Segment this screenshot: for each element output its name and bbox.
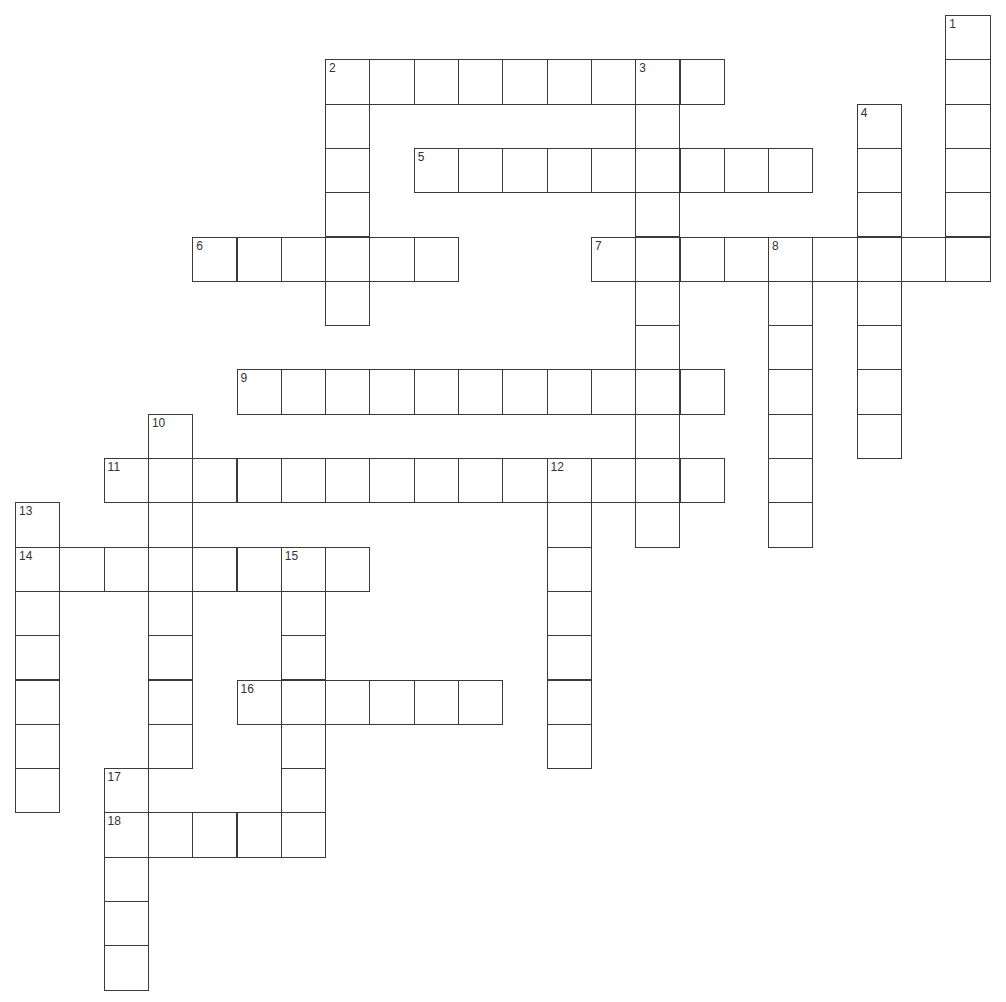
crossword-cell[interactable] — [281, 768, 326, 813]
crossword-cell[interactable] — [192, 547, 237, 592]
crossword-cell[interactable] — [857, 414, 902, 459]
crossword-cell[interactable] — [369, 458, 414, 503]
crossword-cell[interactable] — [768, 369, 813, 414]
crossword-cell[interactable] — [768, 458, 813, 503]
crossword-cell[interactable]: 3 — [635, 59, 680, 104]
crossword-cell[interactable]: 13 — [15, 502, 60, 547]
crossword-cell[interactable] — [281, 680, 326, 725]
crossword-cell[interactable] — [325, 148, 370, 193]
crossword-cell[interactable] — [635, 458, 680, 503]
crossword-cell[interactable] — [635, 192, 680, 237]
crossword-cell[interactable] — [369, 680, 414, 725]
crossword-cell[interactable] — [635, 237, 680, 282]
crossword-cell[interactable] — [458, 148, 503, 193]
crossword-cell[interactable] — [945, 237, 990, 282]
crossword-cell[interactable] — [547, 502, 592, 547]
crossword-cell[interactable] — [547, 59, 592, 104]
crossword-cell[interactable] — [857, 369, 902, 414]
crossword-cell[interactable]: 1 — [945, 15, 990, 60]
crossword-cell[interactable] — [945, 104, 990, 149]
crossword-cell[interactable] — [502, 148, 547, 193]
crossword-cell[interactable] — [547, 635, 592, 680]
crossword-cell[interactable] — [635, 325, 680, 370]
crossword-cell[interactable] — [281, 635, 326, 680]
crossword-cell[interactable] — [724, 237, 769, 282]
crossword-cell[interactable] — [502, 369, 547, 414]
crossword-cell[interactable] — [768, 148, 813, 193]
crossword-cell[interactable] — [547, 148, 592, 193]
crossword-cell[interactable] — [945, 192, 990, 237]
crossword-cell[interactable] — [458, 458, 503, 503]
crossword-cell[interactable] — [857, 237, 902, 282]
crossword-cell[interactable] — [812, 237, 857, 282]
crossword-cell[interactable] — [148, 635, 193, 680]
crossword-cell[interactable] — [414, 237, 459, 282]
crossword-cell[interactable] — [680, 148, 725, 193]
crossword-cell[interactable] — [414, 369, 459, 414]
crossword-cell[interactable] — [15, 724, 60, 769]
crossword-cell[interactable] — [547, 591, 592, 636]
crossword-cell[interactable] — [591, 369, 636, 414]
crossword-cell[interactable]: 10 — [148, 414, 193, 459]
crossword-cell[interactable] — [104, 857, 149, 902]
crossword-cell[interactable] — [945, 59, 990, 104]
crossword-cell[interactable] — [768, 502, 813, 547]
crossword-cell[interactable]: 15 — [281, 547, 326, 592]
crossword-cell[interactable] — [768, 281, 813, 326]
crossword-cell[interactable] — [15, 591, 60, 636]
crossword-cell[interactable] — [502, 59, 547, 104]
crossword-cell[interactable] — [281, 458, 326, 503]
crossword-cell[interactable] — [281, 812, 326, 857]
crossword-cell[interactable] — [768, 414, 813, 459]
crossword-cell[interactable] — [635, 104, 680, 149]
crossword-cell[interactable] — [15, 635, 60, 680]
crossword-cell[interactable]: 5 — [414, 148, 459, 193]
crossword-cell[interactable] — [59, 547, 104, 592]
crossword-cell[interactable] — [458, 680, 503, 725]
crossword-cell[interactable] — [281, 237, 326, 282]
crossword-cell[interactable] — [547, 680, 592, 725]
crossword-cell[interactable] — [148, 591, 193, 636]
crossword-cell[interactable] — [635, 369, 680, 414]
crossword-cell[interactable] — [680, 59, 725, 104]
crossword-cell[interactable] — [901, 237, 946, 282]
crossword-cell[interactable] — [148, 458, 193, 503]
crossword-cell[interactable] — [547, 547, 592, 592]
crossword-cell[interactable] — [369, 369, 414, 414]
crossword-cell[interactable] — [15, 768, 60, 813]
crossword-cell[interactable] — [325, 281, 370, 326]
crossword-cell[interactable] — [325, 237, 370, 282]
crossword-cell[interactable] — [237, 547, 282, 592]
crossword-cell[interactable] — [237, 812, 282, 857]
crossword-cell[interactable] — [458, 59, 503, 104]
crossword-cell[interactable]: 17 — [104, 768, 149, 813]
crossword-cell[interactable] — [857, 325, 902, 370]
crossword-cell[interactable]: 8 — [768, 237, 813, 282]
crossword-cell[interactable] — [591, 59, 636, 104]
crossword-cell[interactable]: 7 — [591, 237, 636, 282]
crossword-cell[interactable] — [192, 458, 237, 503]
crossword-cell[interactable] — [768, 325, 813, 370]
crossword-cell[interactable] — [414, 680, 459, 725]
crossword-cell[interactable]: 2 — [325, 59, 370, 104]
crossword-cell[interactable] — [104, 901, 149, 946]
crossword-cell[interactable] — [458, 369, 503, 414]
crossword-cell[interactable] — [857, 148, 902, 193]
crossword-cell[interactable]: 18 — [104, 812, 149, 857]
crossword-cell[interactable] — [281, 591, 326, 636]
crossword-cell[interactable]: 12 — [547, 458, 592, 503]
crossword-cell[interactable] — [148, 502, 193, 547]
crossword-cell[interactable] — [414, 59, 459, 104]
crossword-cell[interactable] — [325, 680, 370, 725]
crossword-cell[interactable] — [680, 237, 725, 282]
crossword-cell[interactable] — [281, 369, 326, 414]
crossword-cell[interactable] — [104, 547, 149, 592]
crossword-cell[interactable] — [724, 148, 769, 193]
crossword-cell[interactable] — [15, 680, 60, 725]
crossword-cell[interactable] — [237, 458, 282, 503]
crossword-cell[interactable] — [148, 547, 193, 592]
crossword-cell[interactable]: 14 — [15, 547, 60, 592]
crossword-cell[interactable] — [547, 369, 592, 414]
crossword-cell[interactable] — [680, 369, 725, 414]
crossword-cell[interactable]: 4 — [857, 104, 902, 149]
